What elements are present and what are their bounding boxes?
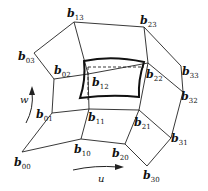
control-point-subscript: 10	[82, 150, 91, 158]
control-point-subscript: 00	[22, 163, 31, 171]
control-point-label-b32: b32	[181, 90, 198, 105]
control-point-subscript: 13	[75, 14, 84, 22]
control-point-label-b22: b22	[146, 68, 163, 83]
control-point-subscript: 11	[96, 118, 105, 126]
control-point-label-b30: b30	[143, 169, 160, 184]
control-point-label-b31: b31	[171, 132, 188, 147]
control-point-label-b12: b12	[92, 76, 109, 91]
net-row-3	[34, 22, 181, 66]
control-point-subscript: 32	[189, 97, 198, 105]
control-point-label-b02: b02	[54, 64, 71, 79]
control-point-subscript: 33	[190, 72, 199, 80]
u-param-label: u	[98, 173, 104, 184]
control-point-label-b20: b20	[112, 147, 129, 162]
control-point-label-b13: b13	[67, 7, 84, 22]
control-point-subscript: 31	[179, 139, 188, 147]
control-point-subscript: 30	[151, 176, 160, 184]
control-point-subscript: 03	[26, 57, 35, 65]
control-point-subscript: 12	[100, 83, 109, 91]
control-point-subscript: 02	[62, 71, 71, 79]
net-col-1	[74, 22, 89, 139]
control-point-subscript: 20	[120, 154, 129, 162]
control-point-label-b00: b00	[14, 156, 31, 171]
control-point-label-b10: b10	[74, 143, 91, 158]
u-direction-arrow	[73, 166, 118, 170]
control-point-label-b03: b03	[18, 50, 35, 65]
surface-patch	[80, 58, 144, 98]
control-point-label-b33: b33	[182, 65, 199, 80]
u-arrowhead-icon	[115, 164, 124, 170]
control-point-subscript: 21	[142, 123, 151, 131]
control-point-subscript: 22	[154, 75, 163, 83]
bezier-net-diagram: w u b00b10b20b30b01b11b21b31b02b12b22b32…	[0, 0, 208, 191]
control-point-label-b11: b11	[88, 111, 105, 126]
w-param-label: w	[20, 94, 29, 105]
control-point-label-b23: b23	[140, 14, 157, 29]
control-point-subscript: 01	[44, 115, 53, 123]
net-row-1	[52, 109, 171, 138]
control-point-label-b01: b01	[36, 108, 53, 123]
control-point-subscript: 23	[148, 21, 157, 29]
net-col-3	[147, 66, 183, 166]
w-arrowhead-icon	[29, 86, 35, 95]
